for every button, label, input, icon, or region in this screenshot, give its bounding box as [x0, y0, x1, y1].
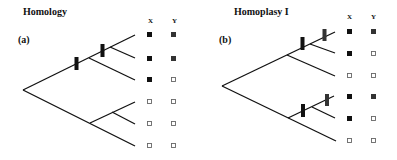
character-change-mark	[323, 29, 327, 41]
state-open-y	[172, 100, 176, 104]
phylogenetic-tree	[0, 0, 198, 160]
state-filled-y	[171, 32, 176, 37]
state-filled-x	[147, 56, 152, 61]
state-open-y	[372, 139, 376, 143]
state-matrix	[147, 32, 176, 148]
character-change-mark	[301, 37, 305, 50]
state-open-y	[172, 122, 176, 126]
state-filled-x	[347, 29, 352, 34]
state-filled-y	[171, 56, 176, 61]
state-filled-y	[371, 29, 376, 34]
panel-homology: Homology (a) X Y	[0, 0, 198, 160]
character-change-mark	[75, 57, 79, 70]
state-open-y	[372, 74, 376, 78]
character-change-mark	[301, 104, 305, 117]
state-open-x	[148, 144, 152, 148]
state-open-y	[172, 144, 176, 148]
state-open-x	[148, 100, 152, 104]
state-filled-y	[371, 94, 376, 99]
state-open-x	[148, 122, 152, 126]
panel-homoplasy: Homoplasy I (b) X Y	[198, 0, 397, 160]
tree-branches	[23, 35, 135, 146]
phylogenetic-tree	[198, 0, 397, 160]
state-open-y	[372, 117, 376, 121]
state-matrix	[347, 29, 376, 143]
tree-branches	[222, 32, 336, 141]
character-change-mark	[101, 44, 105, 57]
state-filled-x	[347, 94, 352, 99]
state-filled-x	[147, 77, 152, 82]
state-filled-x	[347, 51, 352, 56]
state-open-x	[348, 74, 352, 78]
state-filled-x	[347, 116, 352, 121]
state-open-y	[172, 78, 176, 82]
state-open-y	[372, 52, 376, 56]
state-open-x	[348, 139, 352, 143]
character-change-mark	[325, 94, 329, 106]
state-filled-x	[147, 32, 152, 37]
